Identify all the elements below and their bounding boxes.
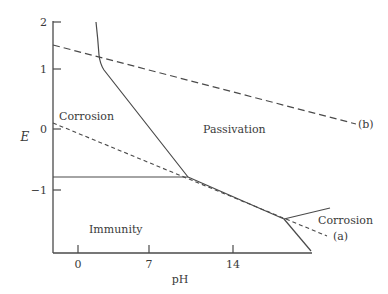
region-passivation: Passivation <box>203 123 266 136</box>
y-tick-label-0: 0 <box>40 123 47 136</box>
x-tick-label-14: 14 <box>226 258 240 271</box>
x-axis-label: pH <box>172 273 189 286</box>
y-tick-label-1: 1 <box>40 63 47 76</box>
x-tick-label-0: 0 <box>75 258 82 271</box>
boundary-corrosion-passivation <box>96 22 188 177</box>
region-immunity: Immunity <box>89 223 143 236</box>
region-corrosion-left: Corrosion <box>59 110 114 123</box>
boundary-immunity-passivation <box>188 177 284 219</box>
x-tick-label-7: 7 <box>146 258 153 271</box>
pourbaix-diagram: 2 1 0 −1 0 7 14 E pH Corrosion Passivati… <box>0 0 388 294</box>
boundary-alkaline-corrosion-lower <box>284 219 311 251</box>
y-axis-label: E <box>20 130 30 144</box>
line-label-b: (b) <box>358 118 374 131</box>
y-tick-label-2: 2 <box>40 16 47 29</box>
region-corrosion-right: Corrosion <box>318 214 373 227</box>
line-label-a: (a) <box>333 230 348 243</box>
y-tick-label-minus1: −1 <box>31 184 47 197</box>
